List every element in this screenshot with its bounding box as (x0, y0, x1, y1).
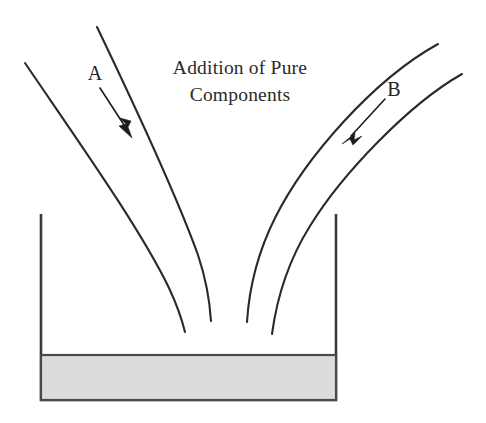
liquid-layer (41, 355, 336, 400)
pure-components-diagram: A B Addition of Pure Components (0, 0, 486, 423)
label-b: B (387, 78, 400, 100)
figure-container: A B Addition of Pure Components (0, 0, 486, 423)
label-a: A (88, 62, 103, 84)
caption-line-2: Components (190, 84, 291, 105)
caption-line-1: Addition of Pure (173, 57, 307, 78)
